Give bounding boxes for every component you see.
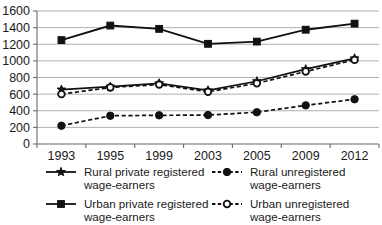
data-point-square-marker <box>302 26 309 33</box>
y-axis-tick-labels: 02004006008001000120014001600 <box>2 4 30 151</box>
data-point-hollow-circle-marker <box>351 57 358 64</box>
y-axis-label: 200 <box>9 121 30 135</box>
data-point-hollow-circle-marker <box>302 68 309 75</box>
legend-label-line2: wage-earners <box>83 178 155 191</box>
legend-square-marker <box>58 201 65 208</box>
y-axis-label: 600 <box>9 88 30 102</box>
x-axis-label: 2005 <box>243 149 271 163</box>
data-point-square-marker <box>156 25 163 32</box>
y-axis-group <box>33 11 37 144</box>
x-axis-label: 1993 <box>48 149 76 163</box>
data-point-hollow-circle-marker <box>156 81 163 88</box>
legend-item-2[interactable]: Rural unregisteredwage-earners <box>212 165 345 191</box>
legend-label-line1: Urban private registered <box>84 197 208 210</box>
data-point-hollow-circle-marker <box>107 84 114 91</box>
x-axis-tick-labels: 1993199519992003200520092012 <box>48 149 369 163</box>
series-4 <box>58 57 358 98</box>
x-axis-label: 2003 <box>194 149 222 163</box>
legend-label-line2: wage-earners <box>249 178 321 191</box>
x-axis-label: 2009 <box>292 149 320 163</box>
x-axis-label: 2012 <box>341 149 369 163</box>
series-3 <box>58 20 358 47</box>
legend-item-1[interactable]: Rural private registeredwage-earners <box>46 165 205 191</box>
legend-label-line2: wage-earners <box>83 210 155 223</box>
data-point-square-marker <box>58 37 65 44</box>
data-point-circle-marker <box>204 111 211 118</box>
y-axis-label: 1000 <box>2 54 30 68</box>
y-axis-label: 400 <box>9 104 30 118</box>
data-point-circle-marker <box>58 122 65 129</box>
legend-star-marker <box>57 167 66 175</box>
legend-label-line2: wage-earners <box>249 210 321 223</box>
x-axis-label: 1999 <box>145 149 173 163</box>
data-point-square-marker <box>351 20 358 27</box>
data-point-hollow-circle-marker <box>205 89 212 96</box>
legend-hollow-circle-marker <box>224 201 231 208</box>
legend-item-3[interactable]: Urban private registeredwage-earners <box>46 197 208 223</box>
data-point-circle-marker <box>107 112 114 119</box>
legend-item-4[interactable]: Urban unregisteredwage-earners <box>212 197 349 223</box>
legend-label-line1: Rural unregistered <box>250 165 345 178</box>
data-point-square-marker <box>107 22 114 29</box>
legend-circle-marker <box>223 168 230 175</box>
legend: Rural private registeredwage-earnersRura… <box>46 165 349 223</box>
chart-container: 02004006008001000120014001600 1993199519… <box>0 0 382 225</box>
x-axis-group <box>37 144 379 148</box>
data-point-hollow-circle-marker <box>254 80 261 87</box>
data-point-circle-marker <box>302 102 309 109</box>
data-point-circle-marker <box>155 112 162 119</box>
line-chart: 02004006008001000120014001600 1993199519… <box>0 0 382 225</box>
y-axis-label: 0 <box>23 137 30 151</box>
x-axis-label: 1995 <box>96 149 124 163</box>
series-group <box>57 20 359 129</box>
legend-label-line1: Urban unregistered <box>250 197 349 210</box>
y-axis-label: 1600 <box>2 4 30 18</box>
series-2 <box>58 96 359 130</box>
data-point-hollow-circle-marker <box>58 91 65 98</box>
y-axis-label: 800 <box>9 71 30 85</box>
legend-label-line1: Rural private registered <box>84 165 205 178</box>
data-point-square-marker <box>205 40 212 47</box>
gridlines-group <box>37 11 379 127</box>
data-point-square-marker <box>253 38 260 45</box>
data-point-circle-marker <box>351 96 358 103</box>
data-point-circle-marker <box>253 109 260 116</box>
y-axis-label: 1200 <box>2 38 30 52</box>
y-axis-label: 1400 <box>2 21 30 35</box>
